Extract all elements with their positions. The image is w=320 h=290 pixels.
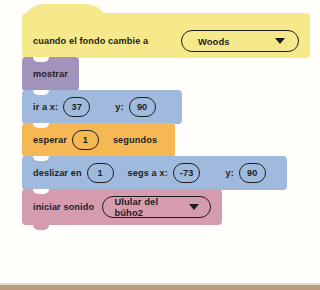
wait-seconds-input[interactable]: 1 [72, 130, 99, 150]
hat-block-dome [22, 4, 108, 26]
glide-mid-label: segs a x: [128, 168, 168, 178]
page-edge-border [0, 285, 320, 290]
block-start-sound[interactable]: iniciar sonido Ulular del búho2 [22, 189, 222, 225]
go-to-x-input[interactable]: 37 [63, 97, 90, 117]
when-backdrop-switches-label: cuando el fondo cambie a [33, 36, 148, 46]
block-editor-canvas: cuando el fondo cambie a Woods mostrar i… [0, 0, 320, 290]
go-to-y-input[interactable]: 90 [129, 97, 156, 117]
chevron-down-icon [189, 204, 199, 210]
wait-suffix-label: segundos [113, 135, 157, 145]
wait-label: esperar [33, 135, 67, 145]
block-notch-bump [33, 225, 49, 230]
glide-y-label: y: [225, 168, 233, 178]
block-notch-dent [33, 90, 49, 95]
glide-x-input[interactable]: -73 [173, 163, 201, 183]
start-sound-label: iniciar sonido [33, 202, 94, 212]
block-notch-dent [33, 57, 49, 62]
block-notch-dent [33, 156, 49, 161]
backdrop-dropdown[interactable]: Woods [181, 30, 299, 52]
glide-label: deslizar en [33, 168, 82, 178]
block-show[interactable]: mostrar [22, 57, 79, 91]
block-wait-seconds[interactable]: esperar 1 segundos [22, 123, 175, 157]
chevron-down-icon [275, 38, 285, 44]
block-script-stack[interactable]: cuando el fondo cambie a Woods mostrar i… [22, 14, 310, 225]
block-notch-dent [33, 189, 49, 194]
sound-dropdown-value: Ulular del búho2 [114, 196, 182, 218]
glide-y-input[interactable]: 90 [239, 163, 266, 183]
glide-seconds-input[interactable]: 1 [87, 163, 114, 183]
backdrop-dropdown-value: Woods [198, 36, 230, 47]
block-notch-dent [33, 123, 49, 128]
sound-dropdown[interactable]: Ulular del búho2 [102, 196, 211, 218]
go-to-xy-label: ir a x: [33, 102, 58, 112]
block-when-backdrop-switches[interactable]: cuando el fondo cambie a Woods [22, 13, 310, 58]
block-go-to-xy[interactable]: ir a x: 37 y: 90 [22, 90, 182, 124]
show-label: mostrar [33, 69, 68, 79]
go-to-y-label: y: [115, 102, 123, 112]
block-glide-secs-to-xy[interactable]: deslizar en 1 segs a x: -73 y: 90 [22, 156, 287, 190]
